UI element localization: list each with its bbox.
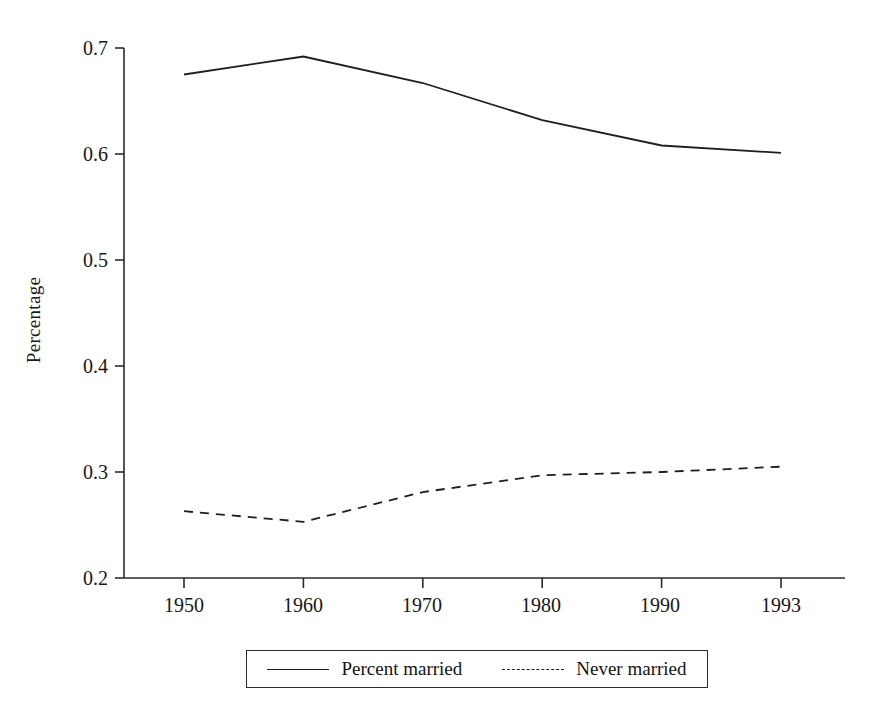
series-line-never-married: [184, 467, 781, 522]
chart-figure: Percentage 0.7 0.6 0.5 0.4 0.3 0.2 1950 …: [0, 0, 872, 719]
series-line-percent-married: [184, 57, 781, 153]
legend-label-percent-married: Percent married: [341, 658, 462, 680]
legend-entry-never-married: Never married: [502, 658, 686, 680]
legend-label-never-married: Never married: [576, 658, 686, 680]
y-axis-ticks: [115, 48, 124, 578]
legend-swatch-solid-line-icon: [267, 669, 329, 670]
chart-legend: Percent married Never married: [246, 650, 708, 688]
x-axis-ticks: [184, 578, 781, 588]
plot-area: [0, 0, 872, 719]
legend-swatch-dashed-line-icon: [502, 669, 564, 670]
legend-entry-percent-married: Percent married: [267, 658, 462, 680]
